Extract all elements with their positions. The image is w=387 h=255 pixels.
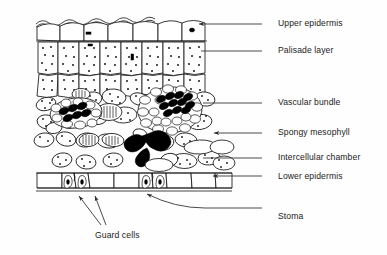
diagram-canvas: .o{fill:#ffffff;stroke:#161616;stroke-wi…	[0, 0, 387, 255]
label-guard-cells: Guard cells	[95, 231, 140, 240]
label-spongy-mesophyll: Spongy mesophyll	[278, 128, 350, 137]
guard-cell-pointers	[79, 196, 106, 225]
label-lower-epidermis: Lower epidermis	[278, 172, 343, 181]
lower-epidermis-cells	[36, 173, 232, 191]
stoma-pointer	[147, 194, 262, 208]
label-palisade-layer: Palisade layer	[278, 46, 333, 55]
label-intercellular-chamber: Intercellular chamber	[278, 153, 360, 162]
label-vascular-bundle: Vascular bundle	[278, 98, 341, 107]
label-stoma: Stoma	[278, 212, 303, 221]
label-upper-epidermis: Upper epidermis	[278, 19, 343, 28]
palisade-row-1	[38, 42, 205, 76]
